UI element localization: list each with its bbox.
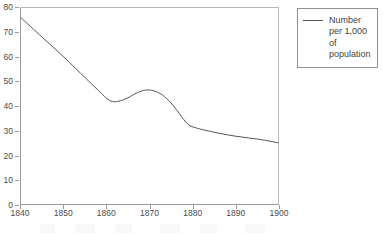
x-axis-tick-label: 1880 — [183, 209, 202, 218]
legend-label-line: per 1,000 — [329, 26, 374, 37]
x-axis-tick-label: 1890 — [226, 209, 245, 218]
x-axis-tick-label: 1850 — [54, 209, 73, 218]
x-axis-tick-mark — [63, 205, 64, 209]
x-axis-tick-mark — [236, 205, 237, 209]
x-axis-tick-mark — [193, 205, 194, 209]
x-axis-tick-mark — [150, 205, 151, 209]
x-axis-tick-mark — [279, 205, 280, 209]
legend-label-line: of — [329, 38, 374, 49]
x-axis-tick-label: 1900 — [270, 209, 289, 218]
legend-entry: Number per 1,000 of population — [303, 15, 374, 61]
legend: Number per 1,000 of population — [297, 8, 378, 68]
x-axis-tick-mark — [106, 205, 107, 209]
legend-label: Number per 1,000 of population — [329, 15, 374, 61]
x-axis-tick-mark — [20, 205, 21, 209]
x-axis-tick-label: 1870 — [140, 209, 159, 218]
x-axis-tick-label: 1860 — [97, 209, 116, 218]
chart-figure: 01020304050607080 1840185018601870188018… — [0, 0, 383, 235]
legend-label-line: Number — [329, 15, 374, 26]
legend-label-line: population — [329, 49, 374, 60]
legend-line-swatch-icon — [303, 20, 323, 21]
x-axis-tick-label: 1840 — [11, 209, 30, 218]
